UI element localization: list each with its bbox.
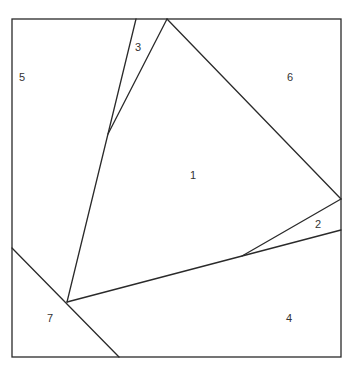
region-label-7: 7	[47, 312, 53, 324]
region-label-2: 2	[315, 218, 321, 230]
divider-line-4	[242, 199, 341, 256]
region-label-6: 6	[287, 71, 293, 83]
region-labels: 1 2 3 4 5 6 7	[19, 41, 321, 324]
divider-line-2	[108, 19, 167, 134]
region-label-5: 5	[19, 71, 25, 83]
divider-line-6	[12, 248, 119, 357]
divider-line-1	[67, 19, 136, 302]
dividing-lines	[12, 19, 341, 357]
partition-diagram: 1 2 3 4 5 6 7	[0, 0, 354, 373]
region-label-3: 3	[135, 41, 141, 53]
region-label-4: 4	[286, 312, 292, 324]
divider-line-5	[67, 230, 341, 302]
region-label-1: 1	[190, 169, 196, 181]
outer-frame	[12, 19, 341, 357]
